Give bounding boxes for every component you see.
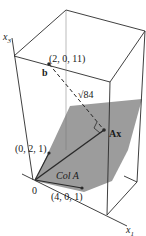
ax-label: Ax	[109, 128, 121, 139]
b-label: b	[42, 67, 48, 78]
col1-coords-label: (0, 2, 1)	[15, 143, 47, 155]
col-a-label: Col A	[56, 170, 80, 181]
origin-label: 0	[32, 185, 37, 196]
col-a-plane	[35, 99, 142, 192]
x3-axis-label: x3	[2, 31, 11, 45]
b-coords-label: (2, 0, 11)	[49, 53, 85, 65]
point-0-2-1	[47, 151, 50, 154]
distance-label: √84	[78, 89, 94, 100]
x3-axis	[12, 38, 33, 180]
least-squares-diagram: x3 x1 0 (2, 0, 11) b √84 Ax (0, 2, 1) (4…	[0, 0, 146, 236]
col2-coords-label: (4, 0, 1)	[51, 191, 83, 203]
point-4-0-1	[80, 186, 83, 189]
x1-axis-label: x1	[125, 224, 134, 236]
